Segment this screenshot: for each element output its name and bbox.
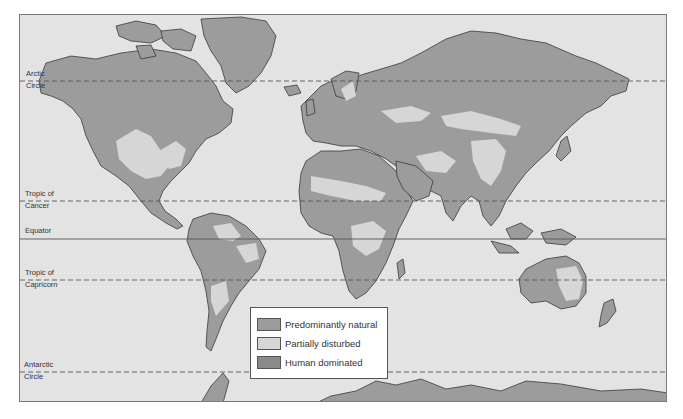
label-line: Tropic of [25, 268, 58, 277]
legend-label: Partially disturbed [285, 338, 361, 349]
label-line: Cancer [25, 201, 54, 210]
legend-item-partially-disturbed: Partially disturbed [257, 336, 361, 350]
legend-label: Predominantly natural [285, 319, 377, 330]
label-line: Equator [25, 226, 51, 235]
legend-label: Human dominated [285, 357, 363, 368]
label-line: Circle [26, 81, 45, 90]
label-line: Circle [24, 372, 53, 381]
equator-label: Equator [25, 226, 51, 235]
swatch-predominantly-natural [257, 318, 281, 331]
label-line: Arctic [26, 69, 45, 78]
swatch-human-dominated [257, 356, 281, 369]
legend-item-human-dominated: Human dominated [257, 355, 363, 369]
legend-item-predominantly-natural: Predominantly natural [257, 317, 377, 331]
antarctic-circle-label: Antarctic Circle [24, 360, 53, 381]
tropic-of-cancer-label: Tropic of Cancer [25, 189, 54, 210]
label-line: Antarctic [24, 360, 53, 369]
swatch-partially-disturbed [257, 337, 281, 350]
arctic-circle-label: Arctic Circle [26, 69, 45, 90]
tropic-of-capricorn-label: Tropic of Capricorn [25, 268, 58, 289]
label-line: Tropic of [25, 189, 54, 198]
label-line: Capricorn [25, 280, 58, 289]
map-legend: Predominantly natural Partially disturbe… [250, 307, 388, 379]
